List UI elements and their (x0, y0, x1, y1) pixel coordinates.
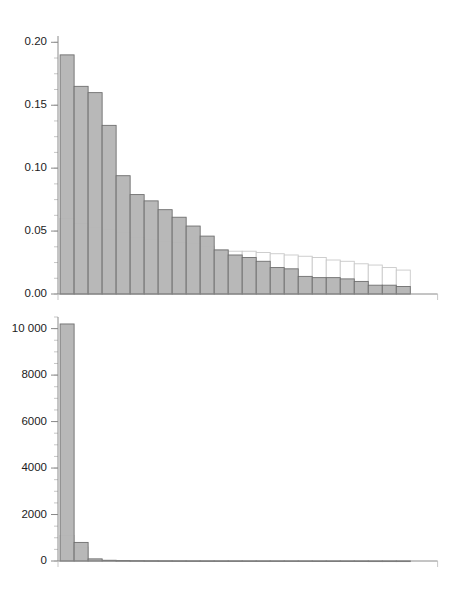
series-expected-bars (60, 535, 410, 561)
y-axis-tick-label: 4000 (21, 461, 47, 473)
bar-observed (312, 278, 326, 294)
y-axis-tick-label: 0.05 (25, 224, 47, 236)
series-observed-bars (60, 324, 410, 562)
y-axis-tick-label: 0.20 (25, 35, 47, 47)
bar-observed (74, 542, 88, 561)
bar-observed (228, 255, 242, 294)
bar-observed (158, 210, 172, 294)
y-axis-tick-label: 8000 (21, 368, 47, 380)
y-axis-tick-label: 6000 (21, 415, 47, 427)
y-axis-tick-label: 2000 (21, 508, 47, 520)
histogram-figure: 0.000.050.100.150.20 0200040006000800010… (0, 0, 469, 591)
bar-observed (270, 268, 284, 294)
bar-observed (172, 217, 186, 294)
y-axis-minor-ticks (54, 317, 58, 561)
bar-observed (340, 279, 354, 294)
bar-observed (298, 276, 312, 294)
y-axis-major-ticks: 0.000.050.100.150.20 (25, 35, 58, 299)
bar-observed (284, 269, 298, 294)
bottom-panel-plot-area: 0200040006000800010 000 (0, 303, 469, 591)
bar-observed (88, 93, 102, 294)
bar-observed (396, 286, 410, 294)
bar-observed (326, 278, 340, 294)
bar-observed (74, 86, 88, 294)
y-axis-tick-label: 0.10 (25, 161, 47, 173)
bar-observed (116, 176, 130, 294)
bar-observed (242, 258, 256, 295)
bar-observed (60, 324, 74, 561)
chart-panel-top: 0.000.050.100.150.20 (0, 0, 469, 303)
bar-observed (102, 125, 116, 294)
top-panel-plot-area: 0.000.050.100.150.20 (0, 0, 469, 303)
y-axis-tick-label: 0.15 (25, 98, 47, 110)
bar-observed (354, 281, 368, 294)
bar-observed (368, 285, 382, 294)
series-observed-bars (60, 55, 410, 294)
y-axis-tick-label: 10 000 (12, 322, 47, 334)
bar-observed (200, 236, 214, 294)
bar-observed (60, 55, 74, 294)
bar-observed (256, 261, 270, 294)
y-axis-tick-label: 0 (41, 554, 47, 566)
bar-observed (382, 285, 396, 294)
chart-panel-bottom: 0200040006000800010 000 (0, 303, 469, 591)
bar-observed (186, 226, 200, 294)
y-axis-tick-label: 0.00 (25, 287, 47, 299)
bar-observed (130, 195, 144, 294)
bar-observed (144, 201, 158, 294)
y-axis-major-ticks: 0200040006000800010 000 (12, 322, 58, 566)
bar-observed (214, 250, 228, 294)
